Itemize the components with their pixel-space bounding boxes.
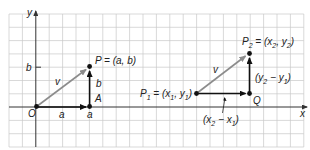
point-P2-label: P2 = (x2, y2) xyxy=(242,36,294,49)
point-P1 xyxy=(194,91,199,96)
vector-v-label-left: v xyxy=(55,76,61,87)
vector-diagram: x y b O a a A b v P = (a, b) v Q P1 = (x… xyxy=(0,0,310,150)
horizontal-a-label: a xyxy=(59,109,65,120)
y-axis-label: y xyxy=(26,7,33,18)
vector-v-label-right: v xyxy=(213,64,219,75)
y-tick-b-label: b xyxy=(26,62,32,73)
point-P1-label: P1 = (x1, y1) xyxy=(140,88,192,101)
vector-v-right xyxy=(197,56,246,94)
point-Q-label: Q xyxy=(253,95,261,106)
vector-v-left xyxy=(36,70,86,108)
x-tick-a-label: a xyxy=(87,109,93,120)
dy-label: (y2 − y1) xyxy=(255,72,291,85)
origin-label: O xyxy=(28,108,36,119)
dx-label: (x2 − x1) xyxy=(203,114,239,127)
point-P xyxy=(87,64,92,69)
point-P2 xyxy=(247,51,252,56)
x-axis-label: x xyxy=(299,108,306,119)
vertical-b-label: b xyxy=(96,78,102,89)
point-P-label: P = (a, b) xyxy=(95,55,136,66)
point-A-label: A xyxy=(94,93,102,104)
point-Q xyxy=(247,91,252,96)
